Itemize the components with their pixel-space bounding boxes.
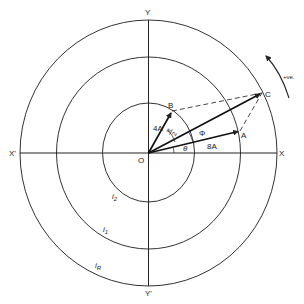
circle-label-i1: i1	[103, 225, 108, 235]
angle-label-phi: Φ	[199, 129, 205, 138]
rotation-label: +ve.	[283, 74, 295, 80]
magnitude-label-oa: 8A	[207, 142, 217, 151]
axis-label-y-neg: Y'	[145, 289, 152, 298]
axis-label-y: Y	[145, 8, 151, 17]
dashed-line-bc	[172, 93, 262, 111]
vector-oa	[149, 132, 239, 154]
point-label-a: A	[241, 131, 247, 140]
circle-label-iR: iR	[95, 261, 102, 271]
point-label-b: B	[168, 101, 173, 110]
magnitude-label-ob: 4A	[153, 124, 163, 133]
angle-label-pi-over-2: π 2	[164, 127, 178, 138]
phasor-diagram: X X' Y Y' O B C A 4A 8A θ Φ π 2 i2 i1 iR…	[0, 0, 304, 304]
point-label-c: C	[265, 90, 271, 99]
construction-lines	[172, 93, 262, 131]
angle-label-theta: θ	[183, 144, 188, 153]
axis-label-x: X	[279, 149, 285, 158]
arc-theta	[173, 147, 174, 153]
circle-label-i2: i2	[112, 192, 118, 202]
origin-label: O	[138, 156, 144, 165]
axis-label-x-neg: X'	[9, 149, 16, 158]
vectors	[149, 94, 261, 153]
